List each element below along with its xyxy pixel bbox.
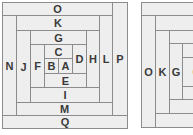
cell-g: G: [169, 43, 183, 100]
cell-k: K: [155, 30, 170, 114]
cell-block: [155, 113, 193, 128]
cell-block: [182, 86, 193, 100]
cell-o: O: [141, 15, 156, 128]
log-cabin-diagram-right: OKGC: [0, 0, 193, 135]
cell-block: [169, 99, 193, 114]
cell-block: [155, 15, 193, 31]
cell-block: [182, 43, 193, 58]
cell-c: C: [182, 57, 193, 87]
cell-block: [141, 2, 193, 16]
cell-block: [169, 30, 193, 44]
